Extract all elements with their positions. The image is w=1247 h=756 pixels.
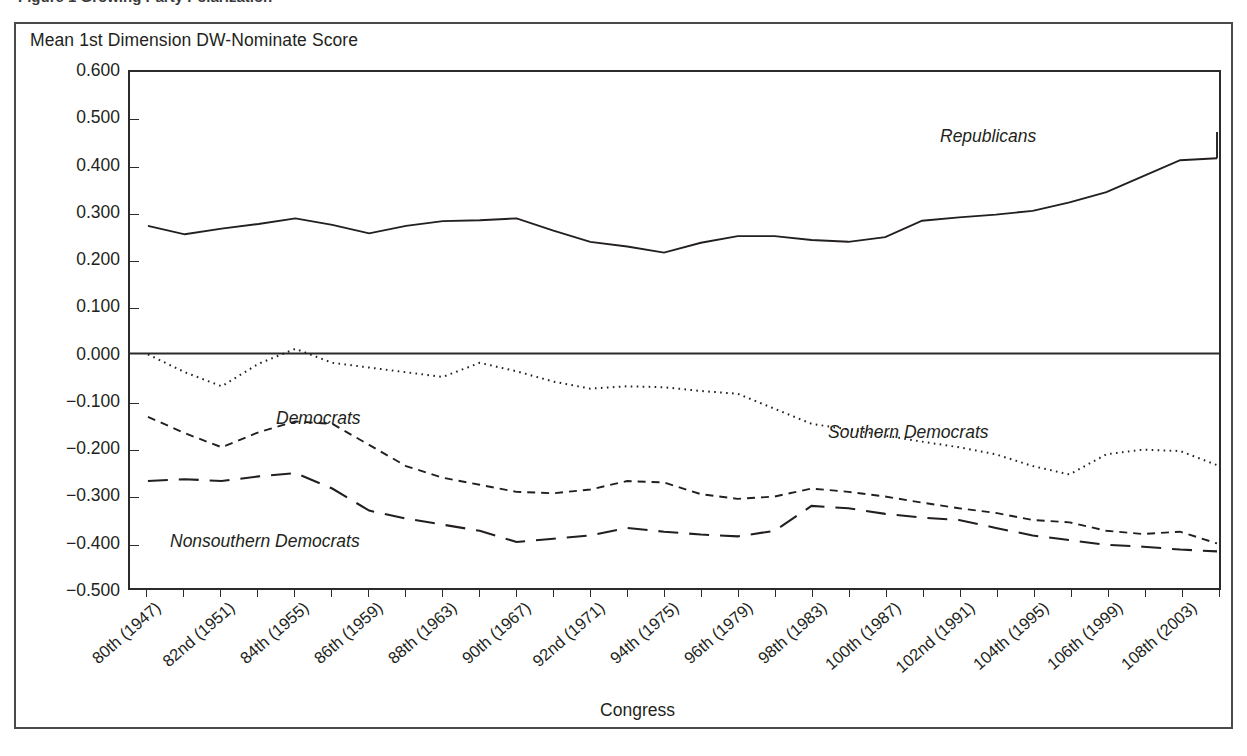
y-tick-label: −0.300 bbox=[28, 485, 120, 506]
y-tick-mark bbox=[130, 119, 139, 120]
y-tick-label: 0.300 bbox=[28, 201, 120, 222]
x-tick-label: 94th (1975) bbox=[606, 598, 682, 668]
x-axis-title: Congress bbox=[0, 700, 1247, 721]
series-label-democrats: Democrats bbox=[276, 408, 361, 429]
caption-sliver-text: Figure 1 Growing Party Polarization bbox=[18, 0, 318, 3]
series-label-nonsouthern-democrats: Nonsouthern Democrats bbox=[170, 531, 360, 552]
y-tick-mark bbox=[130, 214, 139, 215]
series-label-southern-democrats: Southern Democrats bbox=[828, 422, 989, 443]
series-line-democrats bbox=[148, 417, 1217, 544]
x-axis-title-text: Congress bbox=[600, 700, 675, 720]
y-tick-label: −0.400 bbox=[28, 532, 120, 553]
caption-sliver: Figure 1 Growing Party Polarization bbox=[18, 0, 318, 12]
y-tick-label: −0.200 bbox=[28, 438, 120, 459]
figure-page: Figure 1 Growing Party Polarization Mean… bbox=[0, 0, 1247, 756]
y-tick-mark bbox=[130, 308, 139, 309]
y-tick-label: 0.000 bbox=[28, 343, 120, 364]
y-tick-label-group: 0.6000.5000.4000.3000.2000.1000.000−0.10… bbox=[22, 70, 120, 590]
x-tick-label: 86th (1959) bbox=[310, 598, 386, 668]
y-tick-label: 0.100 bbox=[28, 296, 120, 317]
x-tick-label: 102nd (1991) bbox=[892, 598, 979, 677]
y-tick-mark bbox=[130, 450, 139, 451]
y-axis-title: Mean 1st Dimension DW-Nominate Score bbox=[30, 30, 358, 51]
x-tick-label: 88th (1963) bbox=[384, 598, 460, 668]
y-tick-label: 0.500 bbox=[28, 107, 120, 128]
x-tick-label: 106th (1999) bbox=[1043, 598, 1126, 674]
y-tick-label: 0.600 bbox=[28, 60, 120, 81]
x-tick-label: 104th (1995) bbox=[969, 598, 1052, 674]
x-tick-label: 108th (2003) bbox=[1117, 598, 1200, 674]
y-tick-label: −0.500 bbox=[28, 580, 120, 601]
x-tick-label: 96th (1979) bbox=[680, 598, 756, 668]
x-tick-label: 98th (1983) bbox=[754, 598, 830, 668]
y-tick-label: 0.200 bbox=[28, 249, 120, 270]
series-line-republicans bbox=[148, 158, 1217, 252]
x-tick-label: 82nd (1951) bbox=[159, 598, 239, 671]
y-tick-mark bbox=[130, 545, 139, 546]
series-label-republicans: Republicans bbox=[940, 126, 1036, 147]
x-tick-label: 92nd (1971) bbox=[529, 598, 609, 671]
y-tick-mark bbox=[130, 261, 139, 262]
x-tick-label: 90th (1967) bbox=[458, 598, 534, 668]
y-tick-label: 0.400 bbox=[28, 154, 120, 175]
y-tick-label: −0.100 bbox=[28, 390, 120, 411]
x-tick-label: 84th (1955) bbox=[236, 598, 312, 668]
y-tick-mark bbox=[130, 497, 139, 498]
y-tick-mark bbox=[130, 403, 139, 404]
x-tick-label-group: 80th (1947)82nd (1951)84th (1955)86th (1… bbox=[128, 596, 1221, 696]
plot-area bbox=[128, 70, 1221, 590]
chart-plot-svg bbox=[130, 72, 1219, 588]
y-tick-mark bbox=[130, 167, 139, 168]
